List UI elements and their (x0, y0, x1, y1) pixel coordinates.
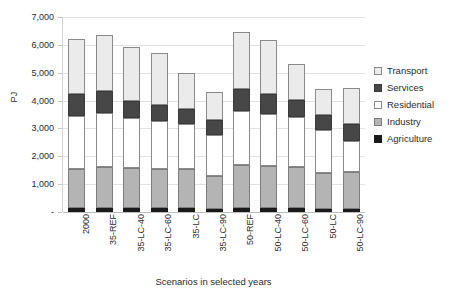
bar-segment-transport[interactable] (260, 40, 277, 94)
bar-segment-services[interactable] (123, 101, 140, 118)
stacked-bar[interactable] (68, 39, 85, 213)
x-axis-tick-labels: 200035-REF35-LC-4035-LC-6035-LC35-LC-905… (63, 214, 365, 270)
bar-segment-agriculture[interactable] (288, 208, 305, 212)
legend-label: Residential (387, 99, 434, 110)
bar-segment-residential[interactable] (123, 118, 140, 168)
bar-column[interactable] (123, 17, 140, 212)
bar-segment-services[interactable] (178, 109, 195, 124)
stacked-bar[interactable] (96, 35, 113, 212)
bar-segment-industry[interactable] (123, 168, 140, 208)
bar-segment-services[interactable] (206, 120, 223, 134)
bar-segment-transport[interactable] (233, 32, 250, 89)
bar-segment-agriculture[interactable] (260, 208, 277, 212)
bar-segment-agriculture[interactable] (96, 208, 113, 212)
bar-segment-industry[interactable] (343, 172, 360, 208)
bar-column[interactable] (151, 17, 168, 212)
bar-segment-industry[interactable] (260, 166, 277, 208)
bar-segment-residential[interactable] (151, 121, 168, 169)
legend-item-residential[interactable]: Residential (374, 96, 460, 113)
bar-segment-residential[interactable] (233, 111, 250, 165)
bar-column[interactable] (343, 17, 360, 212)
bar-segment-services[interactable] (151, 105, 168, 121)
bar-segment-transport[interactable] (68, 39, 85, 94)
stacked-bar[interactable] (178, 73, 195, 212)
bar-segment-transport[interactable] (288, 64, 305, 100)
bar-segment-services[interactable] (343, 124, 360, 141)
bar-segment-transport[interactable] (206, 92, 223, 121)
bar-column[interactable] (288, 17, 305, 212)
x-tick-label: 50-LC (328, 214, 338, 239)
legend-item-transport[interactable]: Transport (374, 62, 460, 79)
legend-item-industry[interactable]: Industry (374, 113, 460, 130)
bar-segment-transport[interactable] (178, 73, 195, 109)
bar-segment-industry[interactable] (178, 169, 195, 209)
bar-segment-residential[interactable] (343, 141, 360, 172)
bar-segment-transport[interactable] (96, 35, 113, 92)
stacked-bar[interactable] (343, 88, 360, 212)
stacked-bar[interactable] (123, 47, 140, 212)
bar-segment-agriculture[interactable] (343, 209, 360, 212)
y-axis-tick-labels: -1,0002,0003,0004,0005,0006,0007,000 (0, 17, 58, 212)
bar-segment-industry[interactable] (68, 169, 85, 209)
bar-segment-industry[interactable] (96, 167, 113, 209)
bar-segment-residential[interactable] (288, 117, 305, 167)
bar-segment-residential[interactable] (260, 114, 277, 166)
bar-segment-agriculture[interactable] (123, 208, 140, 212)
bar-segment-residential[interactable] (96, 113, 113, 167)
bar-segment-industry[interactable] (288, 167, 305, 208)
bar-segment-services[interactable] (68, 94, 85, 116)
bar-column[interactable] (178, 17, 195, 212)
y-tick-label: 5,000 (31, 68, 54, 77)
bar-segment-residential[interactable] (68, 116, 85, 169)
bar-segment-services[interactable] (233, 89, 250, 111)
stacked-bar[interactable] (233, 32, 250, 212)
swatch-residential-icon (374, 101, 382, 109)
bar-segment-industry[interactable] (206, 176, 223, 209)
legend-item-agriculture[interactable]: Agriculture (374, 130, 460, 147)
bar-column[interactable] (315, 17, 332, 212)
bar-segment-transport[interactable] (343, 88, 360, 124)
bar-column[interactable] (68, 17, 85, 212)
swatch-services-icon (374, 84, 382, 92)
bar-segment-services[interactable] (260, 94, 277, 115)
bar-segment-services[interactable] (288, 100, 305, 117)
bar-segment-agriculture[interactable] (315, 209, 332, 212)
x-tick-label: 35-LC (191, 214, 201, 239)
y-tick-label: - (51, 208, 54, 217)
bar-segment-residential[interactable] (178, 124, 195, 169)
bar-segment-residential[interactable] (206, 135, 223, 176)
y-tick-mark (58, 184, 62, 185)
legend-item-services[interactable]: Services (374, 79, 460, 96)
y-tick-label: 2,000 (31, 152, 54, 161)
bar-segment-agriculture[interactable] (178, 208, 195, 212)
swatch-transport-icon (374, 67, 382, 75)
chart-legend: TransportServicesResidentialIndustryAgri… (374, 62, 460, 147)
bar-column[interactable] (233, 17, 250, 212)
bar-segment-agriculture[interactable] (233, 208, 250, 212)
legend-label: Industry (387, 116, 421, 127)
y-tick-mark (58, 73, 62, 74)
bar-segment-industry[interactable] (315, 173, 332, 209)
stacked-bar-chart: PJ -1,0002,0003,0004,0005,0006,0007,000 … (0, 0, 462, 300)
stacked-bar[interactable] (206, 92, 223, 212)
bar-segment-agriculture[interactable] (68, 208, 85, 212)
bar-segment-transport[interactable] (151, 53, 168, 105)
bar-column[interactable] (96, 17, 113, 212)
stacked-bar[interactable] (151, 53, 168, 212)
bar-segment-services[interactable] (315, 115, 332, 130)
bar-segment-transport[interactable] (315, 89, 332, 115)
stacked-bar[interactable] (315, 89, 332, 212)
y-tick-mark (58, 45, 62, 46)
bar-segment-services[interactable] (96, 91, 113, 113)
stacked-bar[interactable] (260, 40, 277, 212)
bar-segment-agriculture[interactable] (151, 208, 168, 212)
bar-segment-residential[interactable] (315, 130, 332, 173)
bar-segment-agriculture[interactable] (206, 209, 223, 212)
bar-column[interactable] (206, 17, 223, 212)
bar-segment-industry[interactable] (233, 165, 250, 209)
bar-segment-transport[interactable] (123, 47, 140, 101)
stacked-bar[interactable] (288, 64, 305, 212)
bar-segment-industry[interactable] (151, 169, 168, 209)
bar-column[interactable] (260, 17, 277, 212)
swatch-agriculture-icon (374, 135, 382, 143)
